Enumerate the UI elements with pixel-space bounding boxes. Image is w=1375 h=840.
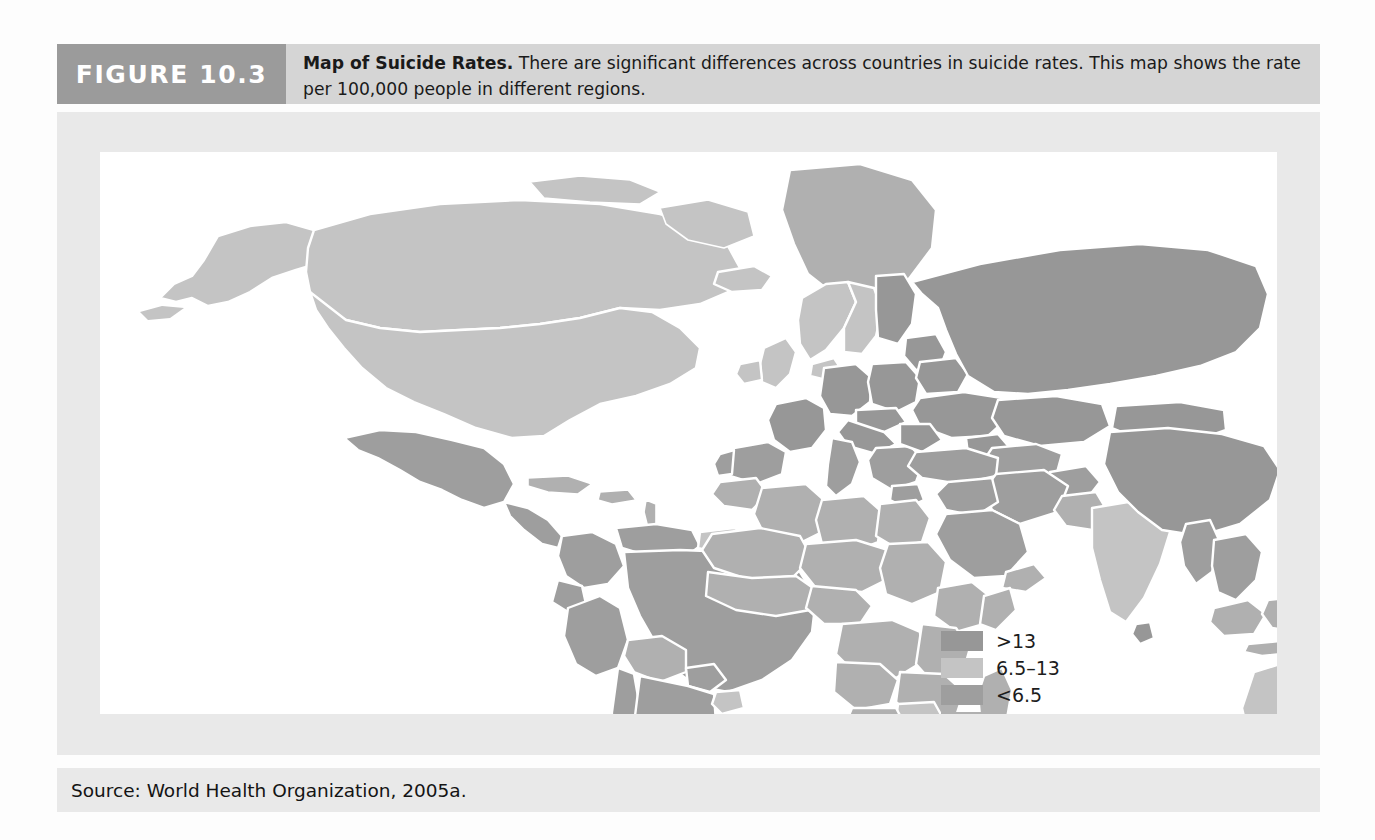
figure-caption-bar: FIGURE 10.3 Map of Suicide Rates. There … [57, 44, 1320, 104]
world-map-svg: .h{fill:#979797} /* >13 */ .m{fill:#c4c4… [100, 152, 1277, 714]
region-portugal [714, 450, 734, 476]
figure-page: FIGURE 10.3 Map of Suicide Rates. There … [0, 0, 1375, 840]
region-sri-lanka [1132, 622, 1154, 644]
region-indonesia-sumatra [1210, 600, 1266, 636]
region-central-america [504, 502, 562, 548]
region-indonesia-java [1244, 640, 1277, 656]
region-hispaniola [598, 490, 636, 504]
region-colombia [558, 532, 624, 588]
legend-swatch-high [941, 631, 983, 651]
legend-swatch-medium [941, 658, 983, 678]
legend-label-nodata: no data [996, 712, 1069, 715]
region-united-kingdom [760, 338, 796, 388]
region-germany [820, 364, 872, 416]
region-alaska [160, 222, 328, 306]
region-italy [826, 438, 860, 496]
legend-label-high: >13 [996, 631, 1036, 651]
region-finland [876, 274, 916, 344]
legend-item-nodata[interactable]: no data [941, 709, 1069, 714]
region-egypt [876, 500, 930, 548]
region-ireland [736, 360, 762, 384]
region-kazakhstan [992, 396, 1110, 446]
figure-panel: .h{fill:#979797} /* >13 */ .m{fill:#c4c4… [57, 112, 1320, 755]
figure-source-bar: Source: World Health Organization, 2005a… [57, 768, 1320, 812]
region-france [768, 398, 826, 452]
region-uruguay [712, 690, 744, 714]
region-australia [1242, 658, 1277, 714]
region-saudi-arabia [936, 510, 1028, 578]
region-niger-chad [800, 540, 890, 592]
legend-label-low: <6.5 [996, 685, 1042, 705]
region-poland [868, 362, 920, 412]
region-canadian-arctic [530, 176, 660, 204]
region-thailand-indochina [1212, 534, 1262, 600]
region-indonesia-borneo [1262, 596, 1277, 632]
region-mexico [344, 430, 514, 508]
legend-swatch-low [941, 685, 983, 705]
figure-caption-title: Map of Suicide Rates. [303, 53, 513, 73]
legend-swatch-nodata [941, 712, 983, 715]
region-philippines [1276, 546, 1277, 596]
legend-item-low[interactable]: <6.5 [941, 682, 1069, 707]
world-map-canvas: .h{fill:#979797} /* >13 */ .m{fill:#c4c4… [100, 152, 1277, 714]
map-legend: >13 6.5–13 <6.5 no data [941, 628, 1069, 714]
region-peru [564, 596, 628, 676]
legend-label-medium: 6.5–13 [996, 658, 1060, 678]
figure-caption-text: Map of Suicide Rates. There are signific… [286, 44, 1320, 104]
region-chile [604, 668, 640, 714]
figure-number-label: FIGURE 10.3 [57, 44, 286, 104]
legend-item-high[interactable]: >13 [941, 628, 1069, 653]
region-aleutians [140, 306, 184, 320]
legend-item-medium[interactable]: 6.5–13 [941, 655, 1069, 680]
figure-source-text: Source: World Health Organization, 2005a… [57, 780, 467, 801]
region-russia [912, 244, 1268, 394]
region-cuba [528, 476, 592, 494]
region-greenland [782, 164, 936, 300]
